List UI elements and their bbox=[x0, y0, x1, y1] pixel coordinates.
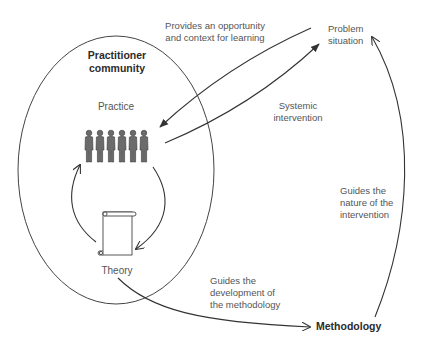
systemic-intervention-label: Systemic intervention bbox=[268, 100, 328, 124]
problem-situation-line-1: Problem bbox=[328, 23, 363, 35]
problem-situation-line-2: situation bbox=[328, 35, 363, 47]
person-icon bbox=[129, 130, 137, 162]
practitioner-community-line-2: community bbox=[84, 62, 150, 75]
person-icon bbox=[107, 130, 115, 162]
person-icon bbox=[85, 130, 93, 162]
guides-nature-line-1: Guides the bbox=[340, 185, 393, 197]
guides-nature-line-3: intervention bbox=[340, 209, 393, 221]
guides-nature-label: Guides the nature of the intervention bbox=[340, 185, 393, 221]
provides-opportunity-label: Provides an opportunity and context for … bbox=[160, 20, 270, 44]
person-icon bbox=[118, 130, 126, 162]
people-icon-group bbox=[85, 130, 148, 162]
guides-development-line-2: development of bbox=[210, 287, 280, 299]
edge-systemic-intervention-arrow bbox=[165, 44, 319, 143]
systemic-intervention-line-1: Systemic bbox=[268, 100, 328, 112]
methodology-label: Methodology bbox=[316, 320, 381, 333]
provides-opportunity-line-1: Provides an opportunity bbox=[160, 20, 270, 32]
practitioner-community-label: Practitioner community bbox=[84, 49, 150, 75]
systemic-intervention-line-2: intervention bbox=[268, 112, 328, 124]
theory-label: Theory bbox=[99, 265, 135, 277]
guides-nature-line-2: nature of the bbox=[340, 197, 393, 209]
problem-situation-label: Problem situation bbox=[328, 23, 363, 47]
scroll-icon bbox=[98, 212, 136, 255]
edge-theory-to-practice-arrow bbox=[72, 165, 96, 242]
person-icon bbox=[140, 130, 148, 162]
guides-development-line-3: the methodology bbox=[210, 299, 280, 311]
practice-label: Practice bbox=[94, 101, 138, 113]
diagram-canvas: Practitioner community Practice Theory P… bbox=[0, 0, 425, 348]
practitioner-community-boundary bbox=[18, 36, 214, 304]
provides-opportunity-line-2: and context for learning bbox=[160, 32, 270, 44]
guides-development-label: Guides the development of the methodolog… bbox=[210, 275, 280, 311]
guides-development-line-1: Guides the bbox=[210, 275, 280, 287]
edge-practice-to-theory-arrow bbox=[136, 167, 165, 249]
person-icon bbox=[96, 130, 104, 162]
practitioner-community-line-1: Practitioner bbox=[84, 49, 150, 62]
edge-guides-nature-arrow bbox=[372, 37, 405, 317]
